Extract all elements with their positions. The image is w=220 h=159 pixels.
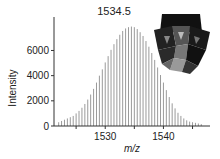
y-axis-label: Intensity (7, 69, 18, 106)
y-tick-label: 0 (43, 121, 49, 132)
x-tick-label: 1540 (152, 131, 175, 142)
mass-spectrum-chart: 0200040006000 15301540 1534.5 m/z Intens… (0, 0, 220, 159)
y-ticks: 0200040006000 (27, 45, 54, 132)
cluster-structure-inset (154, 14, 210, 74)
x-ticks: 15301540 (76, 126, 192, 142)
peak-annotation: 1534.5 (97, 5, 131, 17)
y-tick-label: 4000 (27, 70, 50, 81)
x-axis-label: m/z (124, 143, 140, 154)
x-tick-label: 1530 (94, 131, 117, 142)
y-tick-label: 6000 (27, 45, 50, 56)
y-tick-label: 2000 (27, 95, 50, 106)
